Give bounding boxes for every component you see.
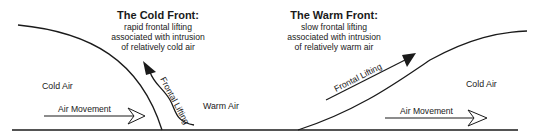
cold-front-desc-line: associated with intrusion — [111, 32, 205, 42]
front-diagram: The Cold Front: rapid frontal lifting as… — [0, 0, 540, 138]
warm-front-cold-air-label: Cold Air — [466, 79, 497, 89]
warm-front-lifting-arrow — [326, 60, 405, 100]
cold-front-lifting-label: Frontal Lifting — [158, 75, 191, 126]
cold-front-warm-air-label: Warm Air — [203, 101, 239, 111]
cold-front-arrowhead-icon — [143, 61, 156, 75]
cold-front-desc-line: rapid frontal lifting — [124, 22, 192, 32]
warm-front-arrowhead-icon — [402, 53, 416, 67]
cold-front-cold-air-label: Cold Air — [42, 81, 73, 91]
warm-front-lifting-label: Frontal Lifting — [332, 61, 383, 94]
warm-front-desc-line: slow frontal lifting — [301, 22, 367, 32]
diagram-canvas: The Cold Front: rapid frontal lifting as… — [0, 0, 540, 138]
cold-front-desc-line: of relatively cold air — [121, 42, 195, 52]
warm-front-desc-line: associated with intrusion — [287, 32, 381, 42]
cold-front-air-movement-label: Air Movement — [58, 104, 112, 114]
cold-front-title: The Cold Front: — [117, 9, 199, 21]
warm-front-desc-line: of relatively warm air — [295, 42, 374, 52]
warm-front-air-movement-label: Air Movement — [400, 106, 454, 116]
warm-front-title: The Warm Front: — [290, 9, 378, 21]
